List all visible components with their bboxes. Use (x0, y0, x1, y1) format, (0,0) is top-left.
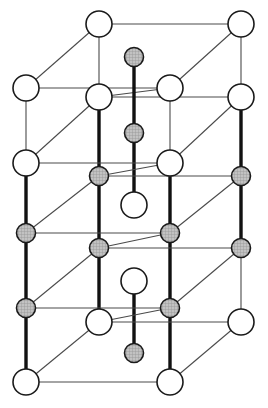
atom-center-second-shaded[interactable] (125, 124, 144, 143)
bond-low-left-diag-down (26, 322, 99, 382)
bond-upper-left-down-diag (26, 97, 99, 163)
atom-upper-left-outer[interactable] (13, 75, 39, 101)
atom-center-bottom-shaded[interactable] (125, 344, 144, 363)
lattice-figure (0, 0, 268, 408)
atom-base-front-right[interactable] (157, 369, 183, 395)
lattice-canvas (0, 0, 268, 408)
bond-midlow-right-diag-down (170, 248, 241, 308)
atom-low-left-shaded[interactable] (17, 299, 36, 318)
atom-center-open-lower[interactable] (121, 268, 147, 294)
atom-mid-right-open[interactable] (157, 150, 183, 176)
atom-mid-left-shaded[interactable] (90, 167, 109, 186)
atom-upper-mid-right[interactable] (157, 75, 183, 101)
atom-top-back-right[interactable] (228, 11, 254, 37)
bond-mid-left-diag-down (26, 176, 99, 233)
bond-low-right-diag-down (170, 322, 241, 382)
atom-mid-right-shaded[interactable] (232, 167, 251, 186)
atom-midlow-left-shaded[interactable] (17, 224, 36, 243)
atom-base-front-left[interactable] (13, 369, 39, 395)
atom-low-inner-open[interactable] (86, 309, 112, 335)
bond-mid-right-diag-down (170, 176, 241, 233)
atom-low-outer-open[interactable] (228, 309, 254, 335)
atom-low-right-shaded[interactable] (161, 299, 180, 318)
atom-midlow-outer-shaded[interactable] (232, 239, 251, 258)
atom-midlow-right-shaded[interactable] (161, 224, 180, 243)
bond-top-back-right-diagonal (170, 24, 241, 88)
atom-center-open-upper[interactable] (121, 192, 147, 218)
atom-upper-mid-left[interactable] (86, 84, 112, 110)
bond-midlow-inner-diag (99, 233, 170, 248)
atom-top-back-left[interactable] (86, 11, 112, 37)
atom-midlow-inner-shaded[interactable] (90, 239, 109, 258)
bond-top-back-left-diagonal (26, 24, 99, 88)
atom-center-upper-shaded[interactable] (125, 48, 144, 67)
bond-midlow-left-diag-down (26, 248, 99, 308)
atom-mid-left-outer[interactable] (13, 150, 39, 176)
bond-upper-outer-right-diag (170, 97, 241, 163)
atom-upper-right-outer[interactable] (228, 84, 254, 110)
